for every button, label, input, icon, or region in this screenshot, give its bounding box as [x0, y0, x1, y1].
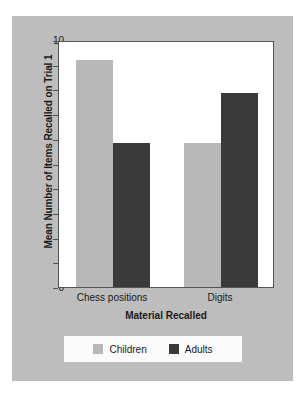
- bar-adults-chess-positions: [113, 143, 150, 287]
- y-tick-mark: [53, 288, 58, 289]
- chart-page: Mean Number of Items Recalled on Trial 1…: [0, 0, 306, 393]
- plot-area: [58, 41, 274, 288]
- bar-children-chess-positions: [76, 60, 113, 287]
- bar-chart-figure: Mean Number of Items Recalled on Trial 1…: [12, 16, 293, 381]
- legend: Children Adults: [64, 336, 242, 362]
- legend-label-adults: Adults: [185, 344, 213, 355]
- bar-children-digits: [184, 143, 221, 287]
- legend-swatch-adults-icon: [169, 344, 179, 354]
- x-category-label: Digits: [166, 292, 274, 303]
- legend-item-adults: Adults: [169, 344, 213, 355]
- figure-panel: Mean Number of Items Recalled on Trial 1…: [12, 16, 293, 381]
- bar-adults-digits: [221, 93, 258, 287]
- legend-item-children: Children: [93, 344, 146, 355]
- legend-label-children: Children: [109, 344, 146, 355]
- x-category-label: Chess positions: [58, 292, 166, 303]
- bars-container: [59, 42, 273, 287]
- x-axis-label: Material Recalled: [58, 310, 274, 321]
- legend-swatch-children-icon: [93, 344, 103, 354]
